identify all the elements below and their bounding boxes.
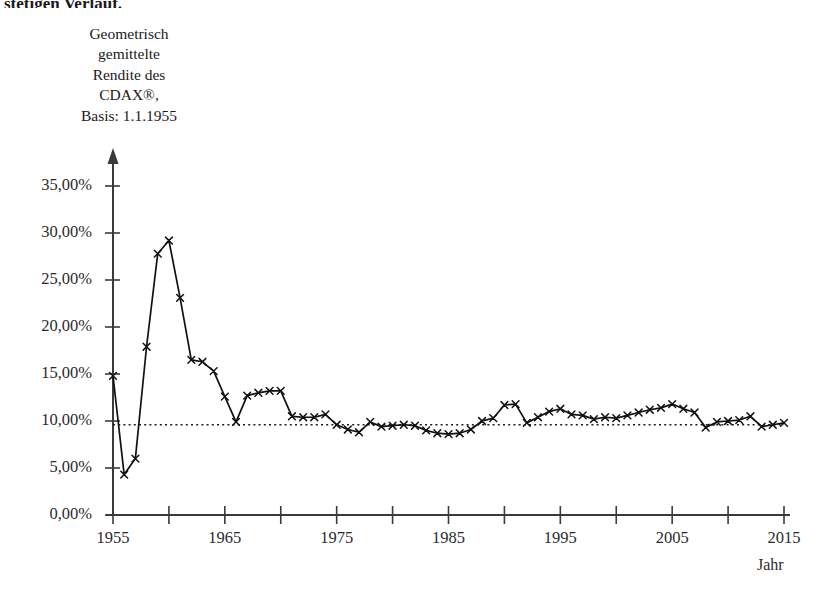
y-tick-label-15: 15,00% — [6, 363, 92, 383]
data-marker-1978 — [367, 419, 374, 426]
data-marker-1965 — [221, 393, 228, 400]
x-tick-label-1995: 1995 — [525, 528, 595, 548]
x-tick-label-2005: 2005 — [637, 528, 707, 548]
y-axis-arrowhead — [108, 148, 119, 164]
data-marker-1964 — [210, 368, 217, 375]
data-marker-2008 — [702, 424, 709, 431]
data-marker-1975 — [333, 421, 340, 428]
y-tick-label-20: 20,00% — [6, 316, 92, 336]
chart-figure: stetigen Verlauf. Geometrisch gemittelte… — [0, 0, 833, 602]
y-tick-label-10: 10,00% — [6, 410, 92, 430]
data-point-markers — [110, 237, 788, 478]
x-tick-label-2015: 2015 — [749, 528, 819, 548]
data-marker-1966 — [233, 419, 240, 426]
x-tick-label-1985: 1985 — [414, 528, 484, 548]
y-tick-label-30: 30,00% — [6, 222, 92, 242]
data-line-cdax-return — [113, 241, 784, 475]
y-tick-label-0: 0,00% — [6, 504, 92, 524]
y-tick-label-25: 25,00% — [6, 269, 92, 289]
y-tick-label-5: 5,00% — [6, 457, 92, 477]
axes-group — [106, 148, 790, 515]
data-marker-1992 — [523, 419, 530, 426]
x-tick-label-1955: 1955 — [78, 528, 148, 548]
plot-area — [0, 0, 833, 602]
x-tick-label-1975: 1975 — [302, 528, 372, 548]
y-tick-label-35: 35,00% — [6, 175, 92, 195]
data-marker-1993 — [535, 414, 542, 421]
x-tick-label-1965: 1965 — [190, 528, 260, 548]
